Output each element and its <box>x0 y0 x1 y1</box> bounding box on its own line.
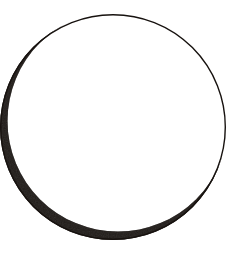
crescent-ring-figure <box>0 0 234 264</box>
crescent-band-group <box>0 0 234 264</box>
figure-canvas <box>0 0 234 264</box>
crescent-band-grain <box>0 0 234 264</box>
